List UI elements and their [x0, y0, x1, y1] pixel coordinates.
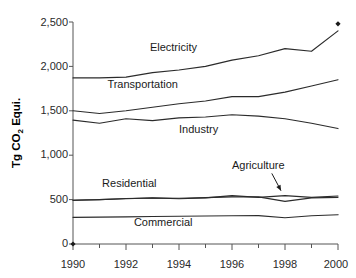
- y-axis-title-post: Equi.: [10, 98, 22, 129]
- y-tick-label-500: 500: [50, 193, 68, 205]
- series-label-electricity: Electricity: [150, 41, 198, 53]
- series-label-layer: ElectricityTransportationIndustryResiden…: [102, 41, 219, 228]
- series-label-industry: Industry: [179, 123, 219, 135]
- series-label-commercial: Commercial: [134, 216, 193, 228]
- x-tick-label-2000: 2000: [324, 258, 348, 270]
- y-axis-title: Tg CO2 Equi.: [10, 98, 25, 168]
- y-axis-tick-labels: 2,500 2,000 1,500 1,000 500 0: [40, 16, 68, 249]
- y-tick-label-1500: 1,500: [40, 104, 68, 116]
- x-tick-label-1992: 1992: [114, 258, 138, 270]
- series-line-commercial: [73, 215, 338, 218]
- y-axis-title-pre: Tg CO: [10, 133, 22, 168]
- x-tick-label-1990: 1990: [61, 258, 85, 270]
- x-axis-ticks: [73, 244, 338, 250]
- series-line-agriculture: [73, 197, 338, 201]
- y-tick-label-1000: 1,000: [40, 148, 68, 160]
- chart-canvas: Tg CO2 Equi. 2,500 2,000 1,500 1,000 500…: [0, 0, 356, 278]
- y-axis-ticks: [69, 22, 73, 244]
- svg-text:Tg CO2 Equi.: Tg CO2 Equi.: [10, 98, 25, 168]
- y-tick-label-2500: 2,500: [40, 16, 68, 28]
- x-tick-label-1998: 1998: [273, 258, 297, 270]
- emissions-line-chart: Tg CO2 Equi. 2,500 2,000 1,500 1,000 500…: [0, 0, 356, 278]
- series-label-residential: Residential: [102, 177, 156, 189]
- annotation-label-agriculture: Agriculture: [232, 159, 285, 171]
- series-line-electricity: [73, 31, 338, 78]
- y-tick-label-0: 0: [62, 237, 68, 249]
- top-right-diamond: [335, 21, 340, 26]
- x-axis-tick-labels: 1990 1992 1994 1996 1998 2000: [61, 258, 348, 270]
- y-tick-label-2000: 2,000: [40, 60, 68, 72]
- x-tick-label-1994: 1994: [167, 258, 191, 270]
- origin-diamond: [70, 241, 75, 246]
- x-tick-label-1996: 1996: [220, 258, 244, 270]
- series-label-transportation: Transportation: [107, 78, 178, 90]
- annotation-layer: Agriculture: [232, 159, 285, 191]
